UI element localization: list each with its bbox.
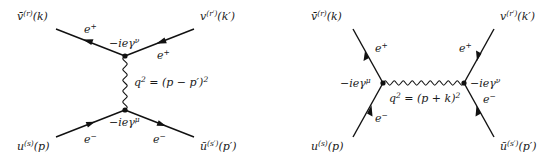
fermion-line-bottom-left [353,83,383,137]
vertex-top [122,53,127,58]
photon-propagator [383,81,464,86]
label-particle-top-right: e+ [459,41,472,55]
label-vertex-factor-top: −ieγν [109,36,140,50]
vertex-left [380,80,385,85]
label-top-right-spinor: v(r′)(k′) [200,9,235,23]
diagram-t-channel: v̄(r)(k) v(r′)(k′) u(s)(p) ū(s′)(p′) e+ … [17,9,237,153]
vertex-right [461,80,466,85]
label-particle-top-left: e+ [84,22,97,36]
label-particle-bottom-right: e− [483,92,496,106]
label-particle-top-left: e+ [375,41,388,55]
label-particle-bottom-left: e− [375,111,388,125]
vertex-bottom [122,107,127,112]
label-momentum-transfer: q2 = (p + k)2 [389,91,461,105]
label-bottom-right-spinor: ū(s′)(p′) [500,139,537,153]
diagram-s-channel: v̄(r)(k) v(r′)(k′) u(s)(p) ū(s′)(p′) e+ … [311,9,537,153]
label-top-right-spinor: v(r′)(k′) [500,9,535,23]
arrow-icon [83,39,94,45]
arrow-icon [156,38,167,44]
label-top-left-spinor: v̄(r)(k) [17,9,48,23]
label-particle-bottom-left: e− [84,132,97,146]
arrow-icon [157,120,167,126]
label-bottom-left-spinor: u(s)(p) [311,139,343,153]
label-particle-bottom-right: e− [153,132,166,146]
label-vertex-factor-right: −ieγν [470,76,501,90]
label-particle-top-right: e+ [157,48,170,62]
fermion-line-top-left [353,29,383,83]
label-vertex-factor-left: −ieγμ [340,76,371,90]
label-bottom-left-spinor: u(s)(p) [17,139,49,153]
label-vertex-factor-bottom: −ieγμ [109,115,140,129]
label-bottom-right-spinor: ū(s′)(p′) [200,139,237,153]
label-top-left-spinor: v̄(r)(k) [311,9,342,23]
arrow-icon [86,122,95,128]
photon-propagator [123,56,128,110]
feynman-diagrams: v̄(r)(k) v(r′)(k′) u(s)(p) ū(s′)(p′) e+ … [0,0,551,163]
label-momentum-transfer: q2 = (p − p′)2 [134,75,208,89]
